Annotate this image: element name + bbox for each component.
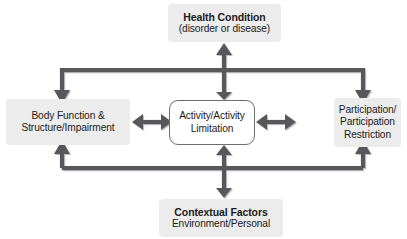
connector-activity-to-contextual [216, 145, 232, 198]
node-health-condition-line2: (disorder or disease) [179, 23, 270, 35]
connector-activity-to-participation [256, 114, 296, 130]
node-contextual-factors-line2: Environment/Personal [172, 218, 270, 230]
connector-body-to-activity [132, 114, 172, 130]
node-participation-restriction-line3: Restriction [344, 129, 391, 141]
node-health-condition-line1: Health Condition [183, 11, 265, 23]
node-health-condition: Health Condition (disorder or disease) [168, 4, 281, 42]
node-participation-restriction-line2: Participation [340, 116, 395, 128]
node-participation-restriction-line1: Participation/ [339, 104, 397, 116]
node-activity-limitation-line1: Activity/Activity [179, 110, 245, 122]
node-body-function-line1: Body Function & [31, 110, 104, 122]
icf-model-diagram: Health Condition (disorder or disease) B… [0, 0, 407, 239]
node-contextual-factors-line1: Contextual Factors [174, 206, 267, 218]
node-activity-limitation-line2: Limitation [191, 123, 234, 135]
node-participation-restriction: Participation/ Participation Restriction [334, 98, 401, 147]
node-body-function-line2: Structure/Impairment [21, 122, 114, 134]
node-activity-limitation: Activity/Activity Limitation [169, 100, 255, 145]
node-contextual-factors: Contextual Factors Environment/Personal [159, 199, 283, 237]
node-body-function: Body Function & Structure/Impairment [6, 99, 130, 145]
